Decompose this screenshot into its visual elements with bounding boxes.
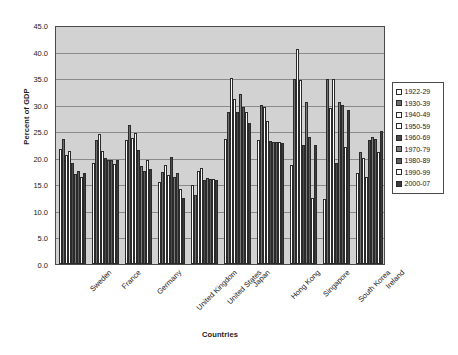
legend-swatch-icon — [396, 100, 402, 106]
bar — [215, 180, 218, 264]
legend-swatch-icon — [396, 135, 402, 141]
bar — [149, 169, 152, 264]
legend-swatch-icon — [396, 169, 402, 175]
legend-label: 1990-99 — [405, 169, 431, 176]
plot-area — [55, 26, 385, 265]
bar — [380, 131, 383, 264]
bar-group — [191, 27, 217, 264]
legend-swatch-icon — [396, 146, 402, 152]
bar-group — [158, 27, 184, 264]
bar — [347, 110, 350, 264]
x-tick-label: Germany — [155, 268, 183, 296]
legend-item: 1930-39 — [396, 98, 441, 110]
y-tick-label: 20.0 — [33, 154, 48, 163]
x-tick-label: France — [119, 268, 142, 291]
legend: 1922-291930-391940-491950-591960-691970-… — [392, 82, 444, 194]
x-axis-tick-labels: SwedenFranceGermanyUnited KingdomUnited … — [55, 266, 385, 326]
bar-group — [290, 27, 316, 264]
y-tick-label: 15.0 — [33, 181, 48, 190]
legend-swatch-icon — [396, 181, 402, 187]
x-tick-label: Hong Kong — [288, 268, 321, 301]
legend-label: 1922-29 — [405, 88, 431, 95]
legend-swatch-icon — [396, 89, 402, 95]
legend-swatch-icon — [396, 112, 402, 118]
bar-group — [323, 27, 349, 264]
legend-item: 1960-69 — [396, 132, 441, 144]
y-tick-label: 30.0 — [33, 101, 48, 110]
legend-label: 1960-69 — [405, 134, 431, 141]
legend-item: 1940-49 — [396, 109, 441, 121]
legend-item: 1950-59 — [396, 121, 441, 133]
bar — [116, 160, 119, 264]
x-tick-label: Sweden — [87, 268, 113, 294]
bars-layer — [56, 27, 384, 264]
bar-group — [224, 27, 250, 264]
y-tick-label: 5.0 — [38, 234, 48, 243]
y-tick-label: 25.0 — [33, 128, 48, 137]
y-tick-label: 40.0 — [33, 48, 48, 57]
bar-group — [125, 27, 151, 264]
bar — [83, 173, 86, 264]
legend-label: 1930-39 — [405, 100, 431, 107]
legend-label: 1940-49 — [405, 111, 431, 118]
legend-item: 1990-99 — [396, 167, 441, 179]
legend-swatch-icon — [396, 158, 402, 164]
y-tick-label: 45.0 — [33, 22, 48, 31]
legend-item: 2000-07 — [396, 178, 441, 190]
bar — [281, 143, 284, 264]
bar-group — [59, 27, 85, 264]
bar-group — [92, 27, 118, 264]
x-tick-label: Singapore — [321, 268, 352, 299]
x-axis-title: Countries — [55, 330, 385, 339]
bar — [314, 145, 317, 265]
legend-label: 1970-79 — [405, 146, 431, 153]
bar-chart: Percent of GDP 45.040.035.030.025.020.01… — [0, 0, 458, 355]
bar-group — [356, 27, 382, 264]
legend-item: 1922-29 — [396, 86, 441, 98]
bar — [182, 198, 185, 264]
y-tick-label: 35.0 — [33, 75, 48, 84]
bar-group — [257, 27, 283, 264]
y-axis-tick-labels: 45.040.035.030.025.020.015.010.05.00.0 — [0, 0, 52, 355]
y-tick-label: 0.0 — [38, 261, 48, 270]
legend-label: 1980-89 — [405, 157, 431, 164]
y-tick-label: 10.0 — [33, 207, 48, 216]
legend-item: 1970-79 — [396, 144, 441, 156]
legend-label: 1950-59 — [405, 123, 431, 130]
legend-label: 2000-07 — [405, 180, 431, 187]
legend-swatch-icon — [396, 123, 402, 129]
legend-item: 1980-89 — [396, 155, 441, 167]
bar — [248, 123, 251, 264]
